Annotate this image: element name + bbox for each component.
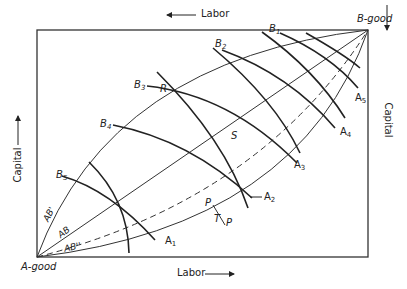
b1-label: B1 [269,24,280,36]
b2-label: B2 [215,39,226,51]
left-axis-label: Capital [13,147,23,183]
a5-label: A5 [355,93,366,105]
point-p-upper-label: P [205,198,211,208]
point-t-label: T [214,214,220,224]
a4-label: A4 [340,127,351,139]
edgeworth-box-diagram [0,0,407,289]
point-p-lower-label: P [226,218,232,228]
b3-label: B3 [134,80,145,92]
b-good-origin-label: B-good [357,14,392,24]
a-good-origin-label: A-good [21,262,56,272]
b5-label: B5 [56,170,67,182]
b4-label: B4 [100,119,111,131]
ab-diagonal-line [37,30,368,257]
a1-label: A1 [165,236,176,248]
point-r-label: R [160,84,167,94]
top-axis-label: Labor [201,9,229,19]
right-axis-label: Capital [383,102,393,138]
a2-label: A2 [264,192,275,204]
bottom-axis-label: Labor [177,268,205,278]
point-s-label: S [231,131,237,141]
a3-label: A3 [294,160,305,172]
a3-isoquant [213,48,300,153]
